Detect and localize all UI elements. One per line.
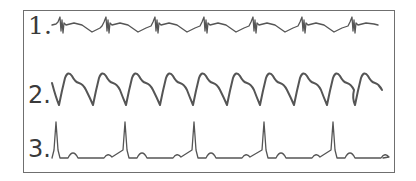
- trace-3-waveform: [52, 122, 389, 158]
- waveform-traces: [0, 0, 416, 181]
- trace-1-waveform: [52, 17, 378, 33]
- trace-2-waveform: [52, 73, 382, 105]
